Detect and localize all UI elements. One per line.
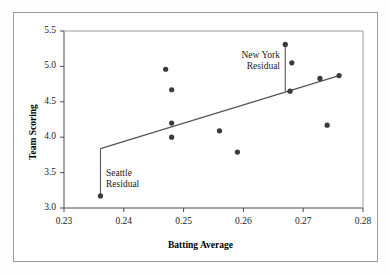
y-tick-label: 3.5 — [20, 167, 56, 177]
seattle-residual-label: SeattleResidual — [106, 168, 139, 190]
annotation-line: Seattle — [106, 168, 139, 179]
x-tick-label: 0.26 — [226, 216, 260, 226]
data-point — [325, 123, 330, 128]
data-point — [217, 128, 222, 133]
x-tick-label: 0.28 — [346, 216, 380, 226]
y-axis-title: Team Scoring — [28, 104, 38, 160]
x-tick-label: 0.27 — [286, 216, 320, 226]
annotation-line: New York — [215, 50, 280, 61]
data-point — [163, 67, 168, 72]
x-tick-label: 0.23 — [47, 216, 81, 226]
y-tick-label: 3.0 — [20, 202, 56, 212]
x-axis-title: Batting Average — [168, 240, 233, 250]
data-point — [235, 149, 240, 154]
new-york-residual-label: New YorkResidual — [215, 50, 280, 72]
annotation-line: Residual — [106, 179, 139, 190]
data-point — [317, 76, 322, 81]
y-tick-label: 5.0 — [20, 60, 56, 70]
annotation-line: Residual — [215, 61, 280, 72]
x-tick-label: 0.25 — [167, 216, 201, 226]
data-point — [289, 60, 294, 65]
y-tick-label: 5.5 — [20, 25, 56, 35]
data-point — [336, 73, 341, 78]
figure: 3.03.54.04.55.05.5 0.230.240.250.260.270… — [0, 0, 390, 276]
regression-line-segment — [100, 76, 339, 149]
x-tick-label: 0.24 — [107, 216, 141, 226]
scatter-plot — [0, 0, 390, 276]
data-point — [169, 87, 174, 92]
data-point — [169, 120, 174, 125]
data-point — [169, 135, 174, 140]
y-tick-label: 4.5 — [20, 96, 56, 106]
data-point — [283, 42, 288, 47]
data-point — [98, 193, 103, 198]
data-point — [287, 89, 292, 94]
y-tick-label: 4.0 — [20, 131, 56, 141]
regression-line — [100, 76, 339, 149]
